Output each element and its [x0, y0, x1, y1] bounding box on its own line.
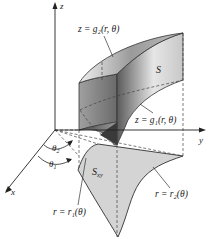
theta1-label: θ1	[49, 159, 56, 170]
z-axis-arrow-icon	[53, 2, 58, 9]
x-axis-label: x	[10, 187, 15, 197]
solid-left-face	[79, 74, 117, 130]
x-axis	[6, 130, 55, 191]
y-axis-arrow-icon	[199, 128, 206, 133]
y-axis-label: y	[198, 135, 203, 145]
z-axis-label: z	[59, 1, 64, 11]
theta2-label: θ2	[52, 143, 59, 154]
solid-label: S	[156, 64, 161, 75]
cylindrical-region-diagram: z y x z = g₂(r, θ) z = g₁(r, θ) S Sxy θ2…	[0, 0, 209, 239]
upper-surface-label: z = g₂(r, θ)	[77, 24, 119, 35]
lower-surface-label: z = g₁(r, θ)	[134, 115, 176, 126]
inner-curve-label: r = r₁(θ)	[53, 207, 86, 218]
outer-curve-label: r = r₂(θ)	[155, 189, 188, 200]
